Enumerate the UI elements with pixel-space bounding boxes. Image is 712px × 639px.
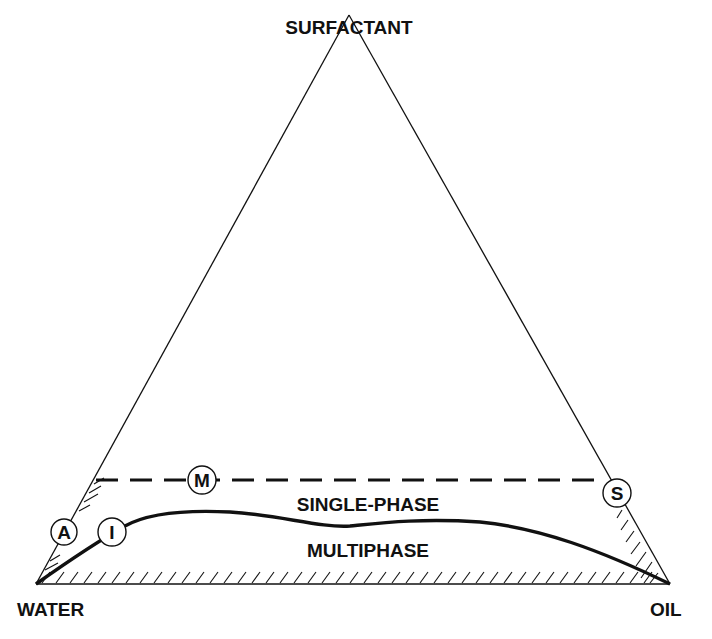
marker-i: I xyxy=(98,518,126,546)
vertex-label-oil: OIL xyxy=(650,599,682,620)
base-hatching xyxy=(42,572,652,583)
marker-i-label: I xyxy=(109,522,114,543)
marker-s: S xyxy=(603,479,631,507)
vertex-label-surfactant: SURFACTANT xyxy=(285,17,413,38)
marker-s-label: S xyxy=(611,483,624,504)
region-label-multiphase: MULTIPHASE xyxy=(307,540,429,561)
ternary-diagram: SURFACTANT WATER OIL SINGLE-PHASE MULTIP… xyxy=(0,0,712,639)
vertex-label-water: WATER xyxy=(17,599,84,620)
marker-a: A xyxy=(51,519,77,545)
region-label-single-phase: SINGLE-PHASE xyxy=(297,494,440,515)
marker-m-label: M xyxy=(194,470,210,491)
marker-m: M xyxy=(188,466,216,494)
marker-a-label: A xyxy=(57,522,71,543)
